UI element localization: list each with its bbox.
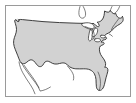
map-frame-border [5,5,131,97]
region-gulf-coast [40,66,73,91]
region-contiguous-united-states [14,10,124,90]
canada-ontario-outline [79,7,86,19]
us-map-graphic [6,6,130,96]
lake-erie [94,39,100,42]
us-landmass-path [14,10,124,90]
us-map-thumbnail [0,0,136,103]
baja-california-west-coast [19,62,35,94]
mexico-border-line [40,87,50,91]
cape-cod-outline [109,34,112,36]
region-baja-california [19,62,40,94]
baja-california-outline [21,63,40,91]
lake-ontario [100,35,105,38]
